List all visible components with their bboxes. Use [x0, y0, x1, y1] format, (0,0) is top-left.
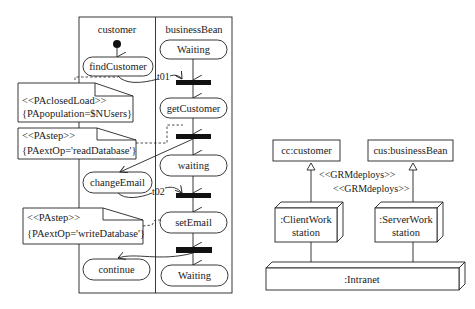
sync-bar-3: [176, 193, 211, 198]
note3-tagged-value: {PAextOp='writeDatabase'}: [27, 228, 145, 239]
node-intranet: :Intranet: [266, 262, 465, 290]
flow-find-to-bar1: [118, 76, 158, 82]
t01-arrow: [170, 75, 182, 79]
triangle-head-icon: [409, 163, 417, 170]
t02-arrow: [165, 187, 182, 193]
svg-text:cus:businessBean: cus:businessBean: [373, 145, 448, 156]
svg-text:changeEmail: changeEmail: [90, 177, 145, 188]
note1-tagged-value: {PApopulation=$NUsers}: [22, 108, 132, 119]
note2-anchor: [136, 125, 183, 143]
sync-bar-1: [176, 80, 211, 85]
initial-node: [113, 40, 121, 48]
sync-bar-2: [176, 134, 211, 139]
state-waiting-3: Waiting: [161, 265, 228, 286]
transition-label-t01: t01: [157, 71, 170, 82]
note1-anchor: [75, 77, 118, 80]
svg-text::ClientWork: :ClientWork: [280, 214, 332, 225]
component-cus-businessbean: cus:businessBean: [368, 140, 453, 161]
state-setemail: setEmail: [160, 212, 227, 233]
note-paclosedload: <<PAclosedLoad>> {PApopulation=$NUsers}: [18, 83, 133, 122]
svg-text::Intranet: :Intranet: [344, 274, 380, 285]
state-waiting-2: waiting: [160, 155, 227, 176]
note1-stereotype: <<PAclosedLoad>>: [22, 95, 107, 106]
uml-diagram: customer businessBean findCustomer chang…: [0, 0, 475, 309]
note2-tagged-value: {PAextOp='readDatabase'}: [22, 145, 136, 156]
lane-header-businessbean: businessBean: [165, 24, 223, 35]
state-findcustomer: findCustomer: [83, 57, 153, 76]
node-client-workstation: :ClientWork station: [275, 202, 343, 242]
activity-diagram: customer businessBean findCustomer chang…: [18, 17, 232, 293]
state-getcustomer: getCustomer: [160, 98, 227, 118]
svg-text:cc:customer: cc:customer: [281, 145, 332, 156]
svg-text:station: station: [292, 227, 321, 238]
svg-text:continue: continue: [98, 264, 134, 275]
note3-stereotype: <<PAstep>>: [27, 212, 80, 223]
sync-bar-4: [176, 247, 212, 253]
node-server-workstation: :ServerWork station: [375, 202, 443, 242]
svg-text:waiting: waiting: [178, 160, 210, 171]
svg-text::ServerWork: :ServerWork: [379, 214, 433, 225]
svg-text:getCustomer: getCustomer: [167, 103, 221, 114]
lane-header-customer: customer: [98, 24, 137, 35]
deploy-label-1: <<GRMdeploys>>: [319, 169, 396, 180]
svg-text:setEmail: setEmail: [175, 217, 212, 228]
state-changeemail: changeEmail: [83, 172, 152, 193]
component-cc-customer: cc:customer: [273, 140, 340, 161]
deploy-label-2: <<GRMdeploys>>: [333, 183, 410, 194]
svg-text:Waiting: Waiting: [178, 270, 212, 281]
triangle-head-icon: [307, 163, 315, 170]
svg-text:Waiting: Waiting: [177, 44, 211, 55]
note-pastep-read: <<PAstep>> {PAextOp='readDatabase'}: [18, 128, 136, 159]
svg-text:station: station: [392, 227, 421, 238]
note3-anchor: [143, 220, 160, 226]
svg-text:findCustomer: findCustomer: [89, 61, 147, 72]
note2-stereotype: <<PAstep>>: [22, 130, 75, 141]
deployment-diagram: cc:customer cus:businessBean <<GRMdeploy…: [266, 140, 465, 290]
state-waiting-1: Waiting: [160, 40, 227, 59]
note-pastep-write: <<PAstep>> {PAextOp='writeDatabase'}: [23, 208, 145, 244]
transition-label-t02: t02: [152, 186, 165, 197]
flow-changeemail-to-bar3: [118, 193, 152, 198]
state-continue: continue: [83, 259, 150, 280]
